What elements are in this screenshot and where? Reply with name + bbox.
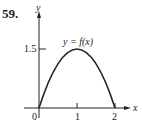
x-axis-arrow-icon [124, 106, 131, 110]
x-tick-label: 1 [75, 111, 80, 122]
curve-label: y = f(x) [62, 36, 94, 48]
x-axis-label: x [132, 102, 138, 113]
y-tick-label: 1.5 [24, 43, 37, 54]
graph: y x 1.5 0 1 2 y = f(x) [0, 0, 143, 129]
x-tick-label: 2 [112, 111, 117, 122]
y-axis-label: y [35, 2, 41, 13]
curve [39, 49, 115, 108]
x-tick-label: 0 [32, 111, 37, 122]
